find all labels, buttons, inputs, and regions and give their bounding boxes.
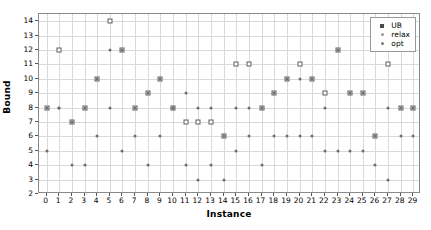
data-point-opt (146, 164, 149, 167)
y-tick-mark (35, 78, 38, 79)
data-point-opt (361, 149, 364, 152)
y-tick-label: 8 (13, 102, 33, 111)
data-point-relax (311, 77, 314, 80)
y-tick-label: 12 (13, 45, 33, 54)
data-point-opt (374, 164, 377, 167)
data-point-relax (387, 106, 390, 109)
y-axis-label: Bound (0, 0, 14, 194)
y-tick-label: 7 (13, 117, 33, 126)
data-point-ub (209, 120, 214, 125)
data-point-opt (159, 135, 162, 138)
data-point-relax (184, 92, 187, 95)
y-tick-label: 13 (13, 30, 33, 39)
data-point-relax (146, 92, 149, 95)
y-tick-mark (35, 121, 38, 122)
y-tick-label: 4 (13, 160, 33, 169)
data-point-relax (70, 121, 73, 124)
data-point-opt (134, 135, 137, 138)
data-point-relax (273, 92, 276, 95)
plot-area: UB relax opt (38, 13, 420, 193)
data-point-opt (336, 149, 339, 152)
data-point-opt (121, 149, 124, 152)
y-tick-label: 14 (13, 16, 33, 25)
data-point-relax (210, 106, 213, 109)
y-tick-mark (35, 164, 38, 165)
data-point-ub (386, 62, 391, 67)
data-point-opt (260, 164, 263, 167)
y-tick-label: 10 (13, 73, 33, 82)
data-point-relax (361, 92, 364, 95)
data-point-ub (297, 62, 302, 67)
data-point-relax (197, 106, 200, 109)
data-point-relax (298, 77, 301, 80)
legend-label-ub: UB (389, 21, 402, 30)
data-point-opt (298, 135, 301, 138)
y-tick-mark (35, 193, 38, 194)
data-point-opt (387, 178, 390, 181)
legend-marker-relax-icon (375, 33, 389, 36)
legend-entry-opt: opt (375, 39, 410, 48)
y-tick-label: 2 (13, 189, 33, 198)
data-point-opt (70, 164, 73, 167)
y-tick-label: 11 (13, 59, 33, 68)
data-point-relax (121, 49, 124, 52)
data-point-opt (311, 135, 314, 138)
data-point-ub (57, 48, 62, 53)
data-point-ub (234, 62, 239, 67)
data-point-relax (235, 106, 238, 109)
legend-marker-opt-icon (375, 42, 389, 45)
data-point-relax (374, 135, 377, 138)
data-point-ub (246, 62, 251, 67)
data-point-opt (108, 106, 111, 109)
y-tick-mark (35, 63, 38, 64)
data-point-opt (222, 178, 225, 181)
data-point-relax (108, 49, 111, 52)
y-tick-mark (35, 35, 38, 36)
y-tick-mark (35, 107, 38, 108)
legend-marker-ub-icon (375, 24, 389, 28)
y-tick-mark (35, 135, 38, 136)
data-point-relax (323, 106, 326, 109)
data-point-opt (197, 178, 200, 181)
data-point-opt (96, 135, 99, 138)
y-tick-label: 3 (13, 174, 33, 183)
data-point-layer (39, 14, 419, 192)
data-point-relax (83, 106, 86, 109)
chart-legend: UB relax opt (370, 17, 416, 52)
data-point-opt (412, 135, 415, 138)
data-point-relax (285, 77, 288, 80)
data-point-opt (58, 106, 61, 109)
data-point-opt (83, 164, 86, 167)
data-point-opt (399, 135, 402, 138)
data-point-opt (323, 149, 326, 152)
y-tick-mark (35, 179, 38, 180)
data-point-relax (159, 77, 162, 80)
data-point-relax (336, 49, 339, 52)
data-point-opt (273, 135, 276, 138)
data-point-opt (235, 149, 238, 152)
data-point-ub (322, 91, 327, 96)
legend-label-relax: relax (389, 30, 410, 39)
data-point-ub (107, 19, 112, 24)
data-point-relax (45, 106, 48, 109)
data-point-ub (196, 120, 201, 125)
y-tick-mark (35, 20, 38, 21)
data-point-opt (172, 106, 175, 109)
data-point-opt (349, 149, 352, 152)
y-tick-label: 5 (13, 145, 33, 154)
data-point-relax (399, 106, 402, 109)
y-tick-mark (35, 49, 38, 50)
data-point-relax (247, 106, 250, 109)
data-point-relax (412, 106, 415, 109)
legend-label-opt: opt (389, 39, 403, 48)
data-point-relax (349, 92, 352, 95)
y-tick-label: 9 (13, 88, 33, 97)
data-point-ub (183, 120, 188, 125)
data-point-opt (184, 164, 187, 167)
data-point-opt (285, 135, 288, 138)
data-point-opt (247, 135, 250, 138)
scatter-chart-figure: Bound UB relax opt 012345678910111213141… (0, 0, 431, 230)
y-tick-mark (35, 150, 38, 151)
y-tick-mark (35, 92, 38, 93)
data-point-opt (45, 149, 48, 152)
